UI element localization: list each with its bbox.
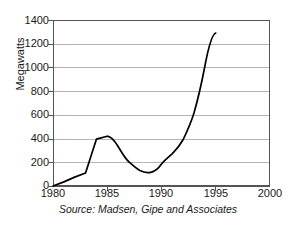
axis-lines [53,20,270,186]
x-tick-label: 1990 [141,188,181,199]
x-tick-label: 1995 [196,188,236,199]
x-tick-label: 1985 [87,188,127,199]
gridlines [53,21,270,163]
chart-figure: Megawatts 1400 1200 1000 800 600 400 200… [0,0,296,225]
x-tick-label: 2000 [250,188,290,199]
source-caption: Source: Madsen, Gipe and Associates [0,203,296,215]
x-tick-label: 1980 [33,188,73,199]
